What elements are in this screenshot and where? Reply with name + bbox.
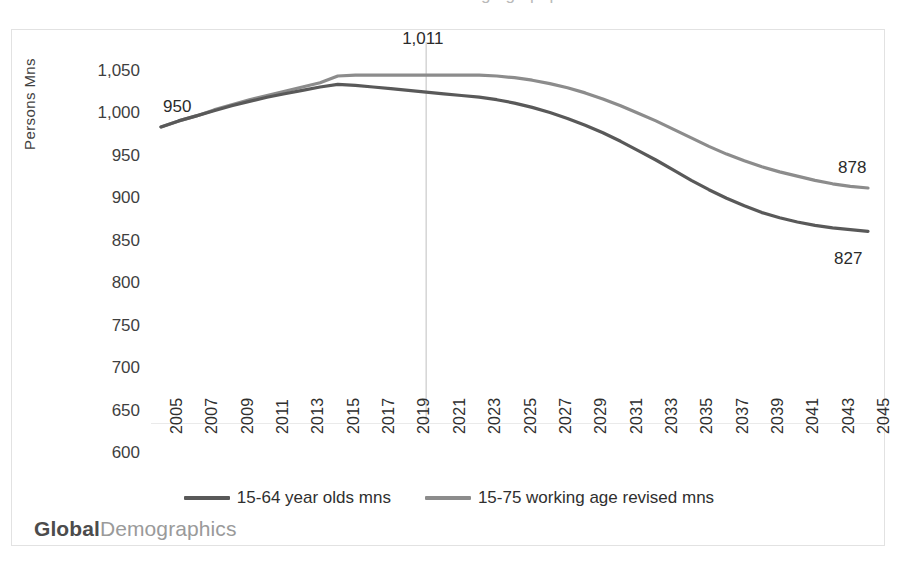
y-axis-title: Persons Mns <box>21 58 38 150</box>
y-axis-tick: 1,000 <box>80 103 140 123</box>
end-label-lower: 827 <box>834 249 862 269</box>
x-axis-tick: 2019 <box>415 398 433 434</box>
x-axis-tick: 2037 <box>734 398 752 434</box>
legend-swatch-icon <box>425 496 471 500</box>
x-axis-tick: 2017 <box>380 398 398 434</box>
x-axis-tick: 2009 <box>239 398 257 434</box>
series-line-2 <box>161 75 868 188</box>
x-axis-tick: 2043 <box>840 398 858 434</box>
series-line-1 <box>161 84 868 231</box>
cut-off-title-strip: working age population <box>0 0 898 16</box>
y-axis-tick: 850 <box>80 231 140 251</box>
x-axis-tick: 2023 <box>486 398 504 434</box>
start-label: 950 <box>163 97 191 117</box>
legend-swatch-icon <box>184 496 230 500</box>
y-axis-tick: 650 <box>80 401 140 421</box>
x-axis-tick: 2007 <box>203 398 221 434</box>
chart-svg <box>151 42 886 424</box>
chart-legend: 15-64 year olds mns15-75 working age rev… <box>12 488 886 508</box>
x-axis-tick: 2029 <box>592 398 610 434</box>
y-axis-tick: 900 <box>80 188 140 208</box>
cut-off-title-text: working age population <box>430 0 611 5</box>
x-axis-tick: 2021 <box>451 398 469 434</box>
x-axis-tick: 2025 <box>522 398 540 434</box>
legend-label: 15-64 year olds mns <box>237 488 391 508</box>
chart-container: Persons Mns 6006507007508008509009501,00… <box>11 29 885 546</box>
x-axis-tick: 2039 <box>769 398 787 434</box>
plot-area <box>151 42 886 424</box>
y-axis-tick: 950 <box>80 146 140 166</box>
brand-logo: GlobalDemographics <box>34 517 237 541</box>
x-axis-tick: 2011 <box>274 399 292 434</box>
brand-part-demographics: Demographics <box>100 517 237 540</box>
x-axis-tick: 2013 <box>309 398 327 434</box>
y-axis-tick: 800 <box>80 273 140 293</box>
brand-part-global: Global <box>34 517 100 540</box>
legend-item-2[interactable]: 15-75 working age revised mns <box>425 488 714 508</box>
x-axis-tick: 2031 <box>628 398 646 434</box>
legend-item-1[interactable]: 15-64 year olds mns <box>184 488 391 508</box>
y-axis-tick: 700 <box>80 358 140 378</box>
x-axis-tick: 2005 <box>168 398 186 434</box>
x-axis-tick: 2033 <box>663 398 681 434</box>
x-axis-tick: 2045 <box>875 398 893 434</box>
y-axis-tick: 750 <box>80 316 140 336</box>
x-axis-tick: 2035 <box>698 398 716 434</box>
x-axis-tick: 2041 <box>804 398 822 434</box>
legend-label: 15-75 working age revised mns <box>478 488 714 508</box>
y-axis-tick: 1,050 <box>80 61 140 81</box>
peak-label: 1,011 <box>402 29 443 49</box>
end-label-upper: 878 <box>838 158 866 178</box>
y-axis-tick: 600 <box>80 443 140 463</box>
y-axis-tick-labels: 6006507007508008509009501,0001,050 <box>72 71 140 453</box>
x-axis-tick: 2015 <box>345 398 363 434</box>
x-axis-tick: 2027 <box>557 398 575 434</box>
